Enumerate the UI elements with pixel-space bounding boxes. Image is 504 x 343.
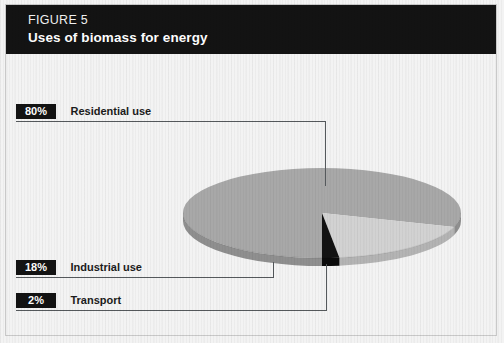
callout-industrial-label: Industrial use <box>70 260 142 275</box>
leader-line-transport-horizontal <box>16 310 327 311</box>
leader-line-residential-vertical <box>325 121 326 186</box>
callout-residential: 80% Residential use <box>16 104 151 121</box>
figure-title: Uses of biomass for energy <box>28 30 208 45</box>
callout-transport-percent: 2% <box>16 293 56 308</box>
callout-residential-percent: 80% <box>16 104 56 119</box>
leader-line-transport-vertical <box>326 264 327 311</box>
callout-residential-label: Residential use <box>70 104 151 119</box>
callout-transport: 2% Transport <box>16 293 121 310</box>
callout-transport-label: Transport <box>70 293 121 308</box>
leader-line-industrial-vertical <box>273 262 274 278</box>
pie-chart <box>183 160 461 275</box>
leader-line-industrial-horizontal <box>16 277 274 278</box>
figure-header-band: FIGURE 5 Uses of biomass for energy <box>6 5 496 54</box>
figure-panel: FIGURE 5 Uses of biomass for energy 80% … <box>0 0 504 343</box>
callout-industrial-percent: 18% <box>16 260 56 275</box>
pie-depth-transport <box>322 258 339 266</box>
figure-number-label: FIGURE 5 <box>28 13 88 27</box>
callout-industrial: 18% Industrial use <box>16 260 142 277</box>
leader-line-residential-horizontal <box>16 121 326 122</box>
